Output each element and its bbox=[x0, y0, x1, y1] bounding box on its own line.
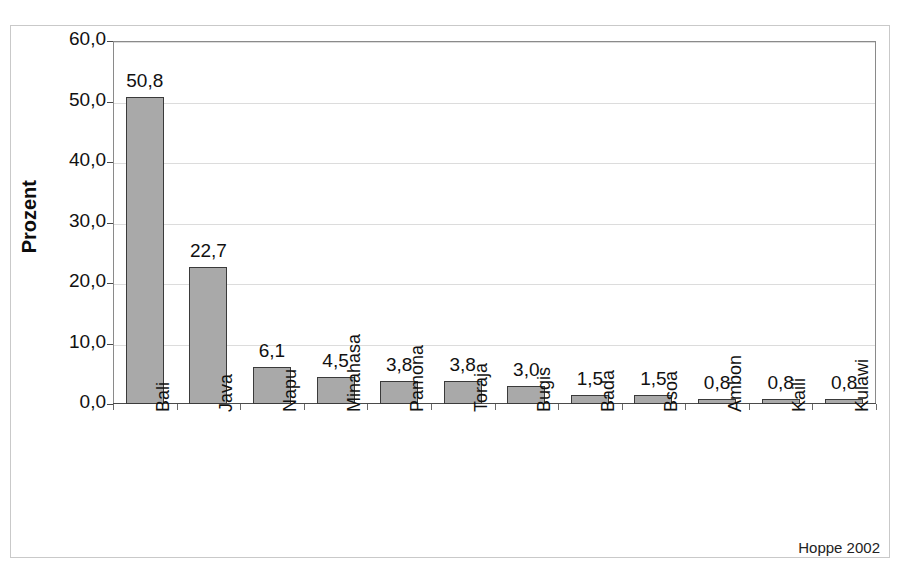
source-annotation: Hoppe 2002 bbox=[798, 539, 880, 556]
x-axis-tick-mark bbox=[876, 404, 877, 410]
x-axis-tick-mark bbox=[685, 404, 686, 410]
x-axis-category-label: Bali bbox=[153, 382, 174, 412]
x-axis-tick-mark bbox=[431, 404, 432, 410]
x-axis-category-label: Napu bbox=[280, 369, 301, 412]
gridline bbox=[114, 103, 875, 104]
y-axis-tick-mark bbox=[107, 223, 113, 224]
y-axis-tick-mark bbox=[107, 344, 113, 345]
y-axis-tick-label: 40,0 bbox=[69, 149, 106, 171]
x-axis-tick-mark bbox=[812, 404, 813, 410]
x-axis-category-label: Kulawi bbox=[852, 359, 873, 412]
y-axis-tick-label: 50,0 bbox=[69, 89, 106, 111]
x-axis-tick-mark bbox=[304, 404, 305, 410]
bar-value-label: 22,7 bbox=[168, 240, 248, 262]
bar bbox=[126, 97, 164, 404]
gridline bbox=[114, 224, 875, 225]
y-axis-tick-labels: 0,010,020,030,040,050,060,0 bbox=[0, 0, 106, 570]
x-axis-tick-mark bbox=[113, 404, 114, 410]
x-axis-tick-mark bbox=[240, 404, 241, 410]
x-axis-tick-mark bbox=[495, 404, 496, 410]
chart-title-cropped bbox=[0, 0, 904, 3]
y-axis-tick-mark bbox=[107, 102, 113, 103]
x-axis-tick-mark bbox=[558, 404, 559, 410]
y-axis-tick-mark bbox=[107, 162, 113, 163]
gridline bbox=[114, 163, 875, 164]
y-axis-tick-mark bbox=[107, 283, 113, 284]
bar-value-label: 50,8 bbox=[105, 70, 185, 92]
x-axis-tick-mark bbox=[177, 404, 178, 410]
y-axis-tick-label: 60,0 bbox=[69, 28, 106, 50]
y-axis-tick-mark bbox=[107, 41, 113, 42]
x-axis-tick-mark bbox=[367, 404, 368, 410]
y-axis-tick-label: 30,0 bbox=[69, 210, 106, 232]
chart-screenshot: Prozent 0,010,020,030,040,050,060,0 50,8… bbox=[0, 0, 904, 570]
gridline bbox=[114, 284, 875, 285]
y-axis-tick-label: 20,0 bbox=[69, 270, 106, 292]
gridline bbox=[114, 42, 875, 43]
x-axis-category-label: Java bbox=[216, 374, 237, 412]
x-axis-tick-mark bbox=[622, 404, 623, 410]
y-axis-tick-label: 0,0 bbox=[80, 391, 106, 413]
plot-area bbox=[113, 41, 876, 404]
gridline bbox=[114, 345, 875, 346]
x-axis-tick-mark bbox=[749, 404, 750, 410]
y-axis-tick-label: 10,0 bbox=[69, 331, 106, 353]
